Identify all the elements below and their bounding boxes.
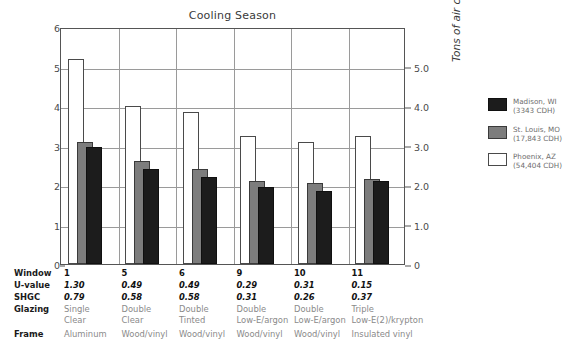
table-cell-window: 6 [179, 268, 185, 278]
chart-legend: Madison, WI(3343 CDH)St. Louis, MO(17,84… [488, 97, 583, 180]
bar-madison [86, 147, 102, 264]
tick-mark [405, 265, 411, 266]
table-cell-shgc: 0.58 [122, 292, 143, 302]
bar-group [61, 29, 119, 264]
chart-page: Cooling Season Peak Cooling Load (kW) To… [0, 0, 585, 352]
table-cell-frame: Insulated vinyl [352, 329, 413, 339]
group-separator [234, 29, 235, 264]
bar-group [349, 29, 407, 264]
legend-label: St. Louis, MO(17,843 CDH) [513, 125, 562, 144]
table-cell-glazing_1: Triple [352, 304, 374, 314]
table-cell-shgc: 0.37 [352, 292, 373, 302]
window-properties-table: WindowU-valueSHGCGlazingFrame11.300.79Si… [0, 268, 450, 352]
table-cell-glazing_2: Low-E/argon [237, 315, 289, 325]
table-cell-shgc: 0.31 [237, 292, 258, 302]
bar-madison [316, 191, 332, 264]
table-cell-glazing_2: Low-E(2)/krypton [352, 315, 424, 325]
bar-madison [258, 187, 274, 264]
y-tick-right: 1.0 [405, 220, 439, 231]
y-axis-label-right: Tons of air conditioning [450, 0, 462, 62]
table-cell-glazing_1: Double [237, 304, 267, 314]
group-separator [176, 29, 177, 264]
y-tick-left: 4 [32, 102, 60, 113]
table-cell-glazing_1: Double [122, 304, 152, 314]
legend-item[interactable]: St. Louis, MO(17,843 CDH) [488, 125, 583, 144]
y-tick-right: 3.0 [405, 141, 439, 152]
table-cell-window: 1 [64, 268, 70, 278]
table-cell-u_value: 0.31 [294, 280, 315, 290]
y-tick-right: 4.0 [405, 102, 439, 113]
table-cell-glazing_2: Tinted [179, 315, 205, 325]
legend-swatch [488, 98, 507, 111]
table-cell-window: 10 [294, 268, 306, 278]
table-cell-frame: Wood/vinyl [179, 329, 225, 339]
group-separator [291, 29, 292, 264]
bar-madison [201, 177, 217, 264]
y-tick-left: 5 [32, 62, 60, 73]
table-cell-window: 11 [352, 268, 364, 278]
y-tick-right: 2.0 [405, 181, 439, 192]
table-cell-glazing_1: Double [179, 304, 209, 314]
legend-swatch [488, 153, 507, 166]
table-cell-window: 9 [237, 268, 243, 278]
table-cell-glazing_1: Double [294, 304, 324, 314]
bar-group [176, 29, 234, 264]
table-cell-window: 5 [122, 268, 128, 278]
legend-label: Madison, WI(3343 CDH) [513, 97, 557, 116]
y-axis-ticks-left: 0123456 [28, 28, 60, 265]
legend-label-cdh: (3343 CDH) [513, 106, 557, 115]
legend-label-cdh: (54,404 CDH) [513, 161, 562, 170]
group-separator [349, 29, 350, 264]
table-cell-u_value: 0.15 [352, 280, 373, 290]
table-cell-glazing_2: Low-E/argon [294, 315, 346, 325]
legend-label-cdh: (17,843 CDH) [513, 134, 562, 143]
table-cell-glazing_1: Single [64, 304, 90, 314]
bar-group [291, 29, 349, 264]
y-tick-left: 6 [32, 23, 60, 34]
legend-item[interactable]: Phoenix, AZ(54,404 CDH) [488, 152, 583, 171]
bar-group [234, 29, 292, 264]
chart-title: Cooling Season [60, 9, 405, 22]
bar-madison [373, 181, 389, 264]
legend-label-city: Phoenix, AZ [513, 152, 562, 161]
group-separator [119, 29, 120, 264]
table-cell-glazing_2: Clear [64, 315, 86, 325]
table-cell-frame: Wood/vinyl [237, 329, 283, 339]
plot-area [60, 28, 405, 265]
table-cell-frame: Aluminum [64, 329, 107, 339]
y-tick-left: 3 [32, 141, 60, 152]
table-cell-glazing_2: Clear [122, 315, 144, 325]
legend-label-city: St. Louis, MO [513, 125, 562, 134]
legend-label-city: Madison, WI [513, 97, 557, 106]
table-cell-u_value: 0.29 [237, 280, 258, 290]
tick-mark [60, 265, 65, 266]
legend-label: Phoenix, AZ(54,404 CDH) [513, 152, 562, 171]
y-tick-right: 5.0 [405, 62, 439, 73]
bar-madison [143, 169, 159, 264]
table-cell-shgc: 0.79 [64, 292, 85, 302]
table-cell-frame: Wood/vinyl [294, 329, 340, 339]
y-tick-left: 2 [32, 181, 60, 192]
table-cell-shgc: 0.58 [179, 292, 200, 302]
bar-group [119, 29, 177, 264]
table-cell-u_value: 0.49 [179, 280, 200, 290]
y-axis-ticks-right: 01.02.03.04.05.0 [405, 28, 445, 265]
legend-item[interactable]: Madison, WI(3343 CDH) [488, 97, 583, 116]
table-cell-u_value: 0.49 [122, 280, 143, 290]
y-tick-left: 1 [32, 220, 60, 231]
table-cell-shgc: 0.26 [294, 292, 315, 302]
table-cell-frame: Wood/vinyl [122, 329, 168, 339]
legend-swatch [488, 126, 507, 139]
table-cell-u_value: 1.30 [64, 280, 85, 290]
